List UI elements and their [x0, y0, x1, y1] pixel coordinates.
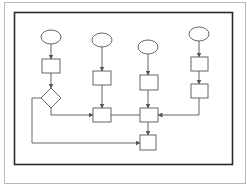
flowchart-canvas: [0, 0, 247, 185]
terminal-node-start-3: [138, 40, 158, 54]
terminal-node-start-2: [92, 33, 112, 47]
process-node-process-2b: [93, 108, 111, 122]
process-node-end-process: [140, 135, 156, 150]
process-node-process-4b: [191, 84, 208, 98]
terminal-node-start-4: [189, 27, 209, 41]
terminal-node-start-1: [41, 30, 61, 44]
process-node-process-2a: [93, 71, 111, 85]
process-node-process-4a: [191, 57, 208, 71]
process-node-process-1a: [42, 59, 60, 73]
process-node-process-3b: [140, 108, 158, 122]
process-node-process-3a: [140, 75, 158, 90]
